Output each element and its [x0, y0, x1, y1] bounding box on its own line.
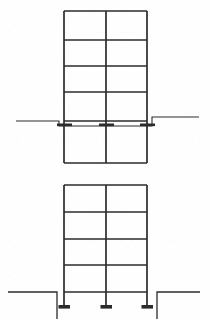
drawing-sheet — [0, 0, 212, 319]
frame-elevations-svg — [0, 0, 212, 319]
base-connection-left — [57, 124, 72, 127]
lower-frame-elevation — [8, 185, 200, 319]
upper-frame-connections — [57, 124, 155, 127]
upper-frame-elevation — [16, 11, 199, 163]
ground-line-right-with-pit-edge — [157, 292, 200, 319]
ground-line-left-with-pit-edge — [8, 292, 57, 319]
ground-line-left-segment — [16, 121, 64, 126]
lower-frame-columns — [64, 185, 147, 306]
base-connection-right — [140, 124, 155, 127]
base-plate-left — [59, 305, 71, 309]
lower-frame-base-plates — [59, 305, 154, 309]
base-connection-middle — [99, 124, 114, 127]
base-plate-right — [142, 305, 154, 309]
upper-frame-columns — [64, 11, 147, 163]
base-plate-middle — [101, 305, 113, 309]
